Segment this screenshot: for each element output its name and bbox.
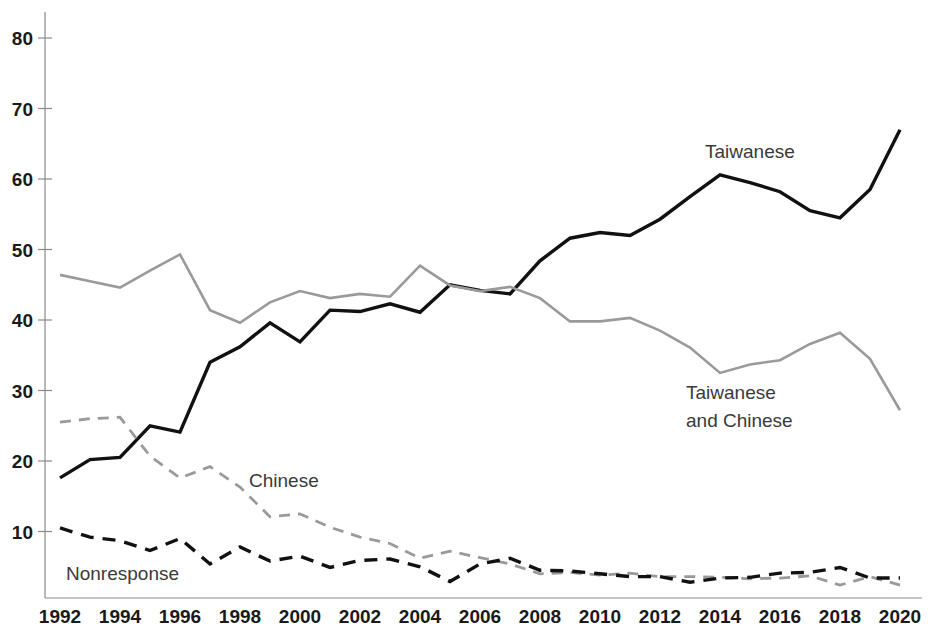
x-tick-label-1996: 1996 [159,606,201,627]
axes [45,12,922,598]
y-tick-label-30: 30 [12,381,33,402]
series-label-nonresponse: Nonresponse [66,563,179,584]
x-tick-label-1992: 1992 [39,606,81,627]
y-tick-label-10: 10 [12,522,33,543]
data-series [60,130,900,585]
x-tick-label-2002: 2002 [339,606,381,627]
x-tick-label-2018: 2018 [819,606,861,627]
series-label-chinese: Chinese [249,470,319,491]
y-tick-label-20: 20 [12,451,33,472]
x-axis-ticks: 1992199419961998200020022004200620082010… [39,606,921,627]
x-tick-label-2016: 2016 [759,606,801,627]
chart-canvas: 1020304050607080 19921994199619982000200… [0,0,930,630]
x-tick-label-2006: 2006 [459,606,501,627]
series-line-nonresponse [60,528,900,582]
y-tick-label-60: 60 [12,169,33,190]
x-tick-label-1994: 1994 [99,606,142,627]
x-tick-label-2020: 2020 [879,606,921,627]
x-tick-label-2014: 2014 [699,606,742,627]
y-axis-ticks: 1020304050607080 [12,28,52,543]
y-tick-label-40: 40 [12,310,33,331]
series-annotations: Taiwanese Taiwanese and Chinese Chinese … [66,141,795,584]
x-tick-label-2012: 2012 [639,606,681,627]
y-tick-label-50: 50 [12,240,33,261]
x-tick-label-2010: 2010 [579,606,621,627]
x-tick-label-2000: 2000 [279,606,321,627]
series-line-chinese [60,417,900,585]
y-tick-label-80: 80 [12,28,33,49]
series-label-taiwanese-and-chinese-line1: Taiwanese [686,382,776,403]
y-tick-label-70: 70 [12,99,33,120]
line-chart: 1020304050607080 19921994199619982000200… [0,0,930,630]
series-label-taiwanese: Taiwanese [705,141,795,162]
x-tick-label-2004: 2004 [399,606,442,627]
x-tick-label-2008: 2008 [519,606,561,627]
series-label-taiwanese-and-chinese-line2: and Chinese [686,410,793,431]
x-tick-label-1998: 1998 [219,606,261,627]
